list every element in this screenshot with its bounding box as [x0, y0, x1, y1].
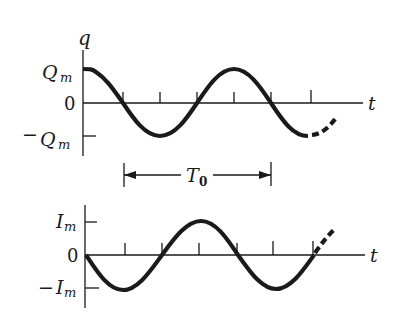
current-time-ticks: [125, 241, 313, 255]
lc-oscillation-diagram: q t Q m 0 − Q m T 0: [0, 0, 396, 320]
current-time-label: t: [370, 244, 378, 266]
svg-text:m: m: [60, 70, 72, 85]
svg-text:Q: Q: [42, 61, 58, 83]
qm-label: Q m: [42, 61, 72, 85]
svg-text:−: −: [22, 123, 38, 145]
charge-time-ticks: [123, 90, 311, 103]
svg-text:m: m: [58, 137, 70, 152]
svg-text:I: I: [55, 210, 64, 232]
period-sub: 0: [199, 175, 207, 189]
svg-text:Q: Q: [40, 128, 56, 150]
svg-text:m: m: [64, 285, 76, 300]
im-label: I m: [55, 210, 76, 234]
arrow-left-icon: [124, 171, 136, 179]
charge-zero-label: 0: [64, 93, 75, 114]
svg-text:−: −: [38, 276, 54, 298]
arrow-right-icon: [259, 171, 271, 179]
neg-im-label: − I m: [38, 276, 76, 300]
charge-time-label: t: [368, 92, 376, 114]
charge-axis-label: q: [78, 26, 91, 50]
charge-plot: q t Q m 0 − Q m: [22, 26, 376, 156]
current-curve-dashed: [315, 228, 336, 253]
current-zero-label: 0: [67, 245, 78, 266]
charge-curve-dashed: [312, 116, 337, 135]
period-marker: T 0: [124, 162, 271, 189]
svg-text:I: I: [55, 276, 64, 298]
period-label: T: [186, 164, 200, 186]
svg-text:m: m: [64, 219, 76, 234]
neg-qm-label: − Q m: [22, 123, 70, 152]
current-plot: t I m 0 − I m: [38, 205, 378, 308]
